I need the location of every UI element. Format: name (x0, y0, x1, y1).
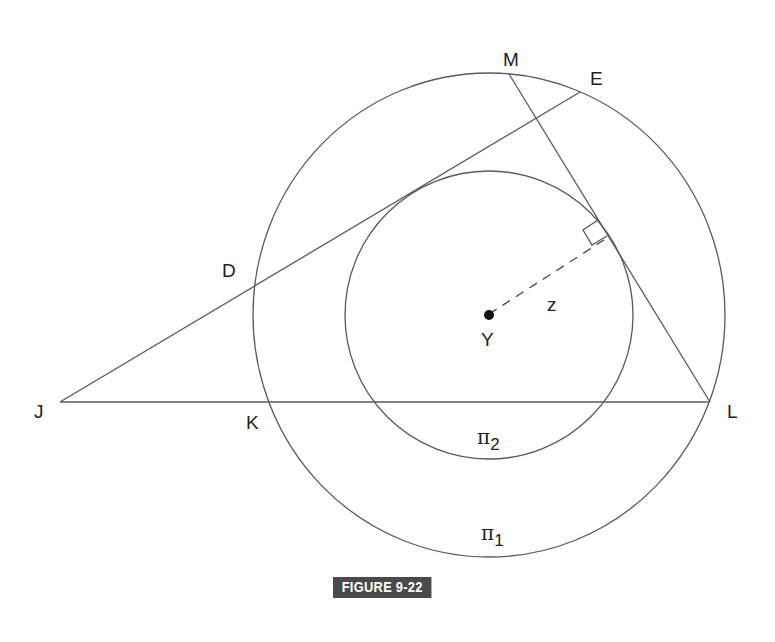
segment-ml (509, 74, 710, 402)
label-l: L (727, 401, 738, 422)
geometry-diagram: M E D J K L Y z π2 π1 (0, 0, 775, 642)
label-m: M (503, 49, 519, 70)
pi2-symbol: π (477, 425, 490, 449)
label-y: Y (481, 329, 494, 350)
label-pi1: π1 (481, 521, 504, 550)
pi2-subscript: 2 (490, 435, 499, 454)
figure-caption-badge: FIGURE 9-22 (333, 577, 431, 598)
label-k: K (246, 412, 259, 433)
center-point-y (484, 310, 494, 320)
pi1-subscript: 1 (494, 531, 503, 550)
segment-je (60, 92, 580, 402)
label-pi2: π2 (477, 425, 500, 454)
label-z: z (547, 294, 557, 315)
label-j: J (34, 401, 44, 422)
right-angle-mark (583, 220, 607, 245)
label-d: D (222, 260, 236, 281)
label-e: E (590, 68, 603, 89)
pi1-symbol: π (481, 521, 494, 545)
